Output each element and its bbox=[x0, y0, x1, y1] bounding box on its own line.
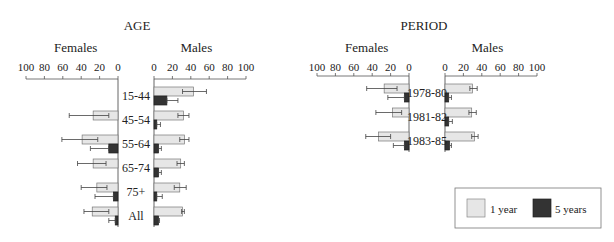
female-tick-label: 60 bbox=[348, 61, 360, 73]
males-label: Males bbox=[471, 40, 503, 55]
bar-male-5yr bbox=[154, 192, 157, 201]
male-tick-label: 100 bbox=[529, 61, 546, 73]
male-tick-label: 60 bbox=[204, 61, 216, 73]
chart-canvas: AGEFemalesMales0020204040606080801001001… bbox=[0, 0, 614, 242]
legend-swatch-5yr bbox=[533, 199, 551, 217]
category-label: 1983-85 bbox=[407, 134, 447, 148]
bar-male-1yr bbox=[445, 132, 474, 141]
female-tick-label: 60 bbox=[57, 61, 69, 73]
female-tick-label: 40 bbox=[367, 61, 379, 73]
bar-male-5yr bbox=[154, 96, 167, 105]
female-tick-label: 20 bbox=[385, 61, 397, 73]
legend-swatch-1yr bbox=[467, 199, 485, 217]
category-label: 1981-82 bbox=[407, 110, 447, 124]
male-tick-label: 20 bbox=[458, 61, 470, 73]
panel-title: PERIOD bbox=[401, 18, 448, 33]
bar-female-5yr bbox=[109, 144, 118, 153]
male-tick-label: 100 bbox=[238, 61, 255, 73]
category-label: 15-44 bbox=[122, 89, 150, 103]
male-tick-label: 40 bbox=[185, 61, 197, 73]
male-tick-label: 80 bbox=[222, 61, 234, 73]
bar-male-5yr bbox=[154, 120, 157, 129]
females-label: Females bbox=[54, 40, 97, 55]
male-tick-label: 20 bbox=[167, 61, 179, 73]
female-tick-label: 0 bbox=[406, 61, 412, 73]
category-label: 65-74 bbox=[122, 161, 150, 175]
female-tick-label: 80 bbox=[330, 61, 342, 73]
legend-label-1yr: 1 year bbox=[490, 203, 518, 215]
bar-male-1yr bbox=[445, 84, 473, 93]
category-label: 75+ bbox=[127, 185, 146, 199]
category-label: 45-54 bbox=[122, 113, 150, 127]
females-label: Females bbox=[345, 40, 388, 55]
bar-female-5yr bbox=[115, 216, 118, 225]
male-tick-label: 0 bbox=[442, 61, 448, 73]
bar-female-5yr bbox=[113, 192, 118, 201]
bar-male-5yr bbox=[154, 168, 159, 177]
male-tick-label: 60 bbox=[495, 61, 507, 73]
males-label: Males bbox=[180, 40, 212, 55]
bar-male-1yr bbox=[445, 108, 472, 117]
category-label: 55-64 bbox=[122, 137, 150, 151]
female-tick-label: 100 bbox=[309, 61, 326, 73]
female-tick-label: 20 bbox=[94, 61, 106, 73]
category-label: All bbox=[128, 209, 144, 223]
category-label: 1978-80 bbox=[407, 86, 447, 100]
female-tick-label: 100 bbox=[18, 61, 35, 73]
bar-male-1yr bbox=[154, 207, 183, 216]
male-tick-label: 80 bbox=[513, 61, 525, 73]
bar-male-5yr bbox=[154, 144, 159, 153]
legend-label-5yr: 5 years bbox=[555, 203, 586, 215]
female-tick-label: 40 bbox=[76, 61, 88, 73]
panel-title: AGE bbox=[124, 18, 151, 33]
female-tick-label: 80 bbox=[39, 61, 51, 73]
bar-male-5yr bbox=[154, 216, 159, 225]
male-tick-label: 40 bbox=[476, 61, 488, 73]
male-tick-label: 0 bbox=[151, 61, 157, 73]
female-tick-label: 0 bbox=[115, 61, 121, 73]
